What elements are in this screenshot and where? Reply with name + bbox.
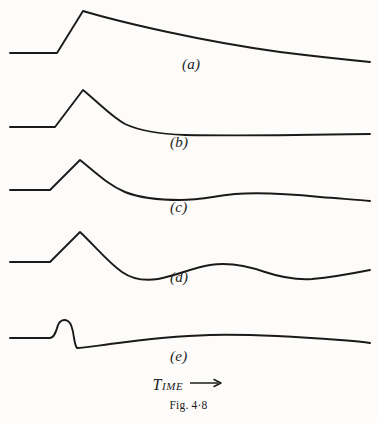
x-axis-label: Time: [0, 374, 377, 394]
x-axis-label-text: Time: [153, 376, 184, 393]
panel-label-a: (a): [182, 56, 200, 73]
curve-trace-b: [10, 90, 370, 135]
curve-trace-e: [10, 320, 370, 348]
curve-trace-d: [10, 232, 370, 280]
panel-label-c: (c): [170, 199, 188, 216]
curve-trace-a: [10, 11, 370, 62]
panel-label-d: (d): [170, 269, 188, 286]
right-arrow-icon: [190, 374, 224, 392]
panel-label-e: (e): [170, 348, 188, 365]
panel-label-b: (b): [170, 134, 188, 151]
figure-container: (a) (b) (c) (d) (e) Time Fig. 4·8: [0, 0, 377, 423]
curve-trace-c: [10, 160, 370, 201]
figure-caption: Fig. 4·8: [0, 399, 377, 411]
